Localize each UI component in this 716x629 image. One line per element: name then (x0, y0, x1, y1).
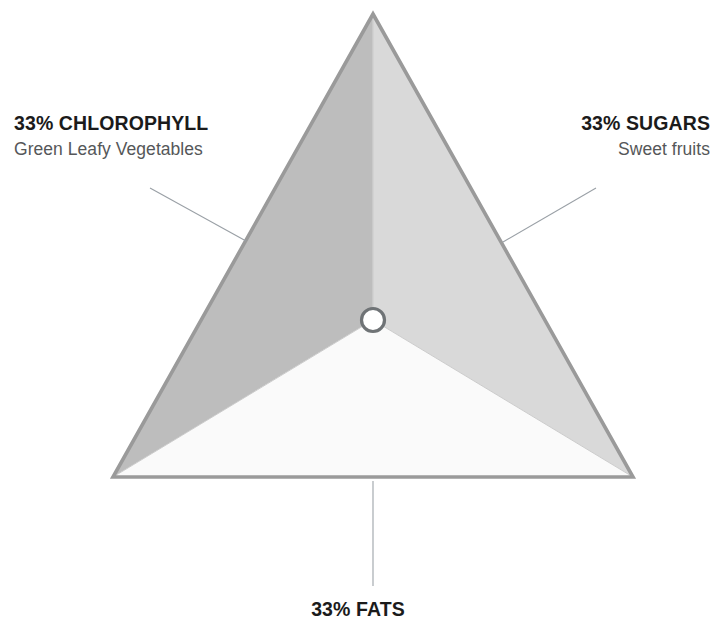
pyramid-diagram: 33% CHLOROPHYLL Green Leafy Vegetables 3… (0, 0, 716, 629)
callout-chlorophyll: 33% CHLOROPHYLL Green Leafy Vegetables (14, 112, 208, 160)
callout-fats: 33% FATS (0, 598, 716, 622)
center-node-icon (362, 309, 385, 332)
callout-sugars-headline: 33% SUGARS (581, 112, 710, 136)
callout-chlorophyll-subline: Green Leafy Vegetables (14, 139, 208, 160)
leader-line-sugars (503, 188, 596, 242)
callout-sugars-subline: Sweet fruits (581, 139, 710, 160)
callout-fats-headline: 33% FATS (0, 598, 716, 622)
callout-chlorophyll-headline: 33% CHLOROPHYLL (14, 112, 208, 136)
pyramid-graphic (0, 0, 716, 629)
callout-sugars: 33% SUGARS Sweet fruits (581, 112, 710, 160)
leader-line-chlorophyll (150, 188, 246, 241)
